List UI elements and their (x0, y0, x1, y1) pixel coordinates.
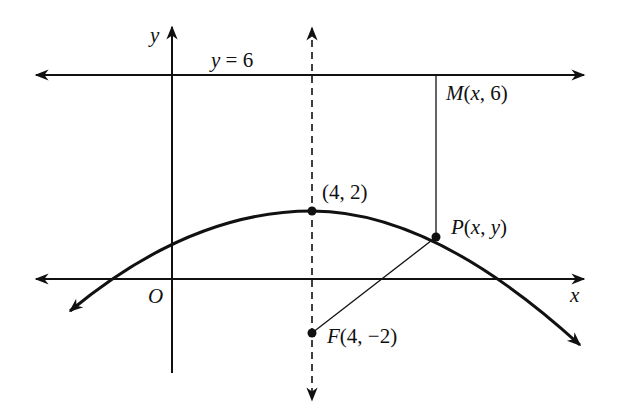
parabola-diagram: y x O y = 6 (4, 2) P(x, y) M(x, 6) F(4, … (0, 0, 621, 416)
directrix-label: y = 6 (211, 50, 253, 71)
p-name: P (451, 215, 464, 239)
p-close: ) (500, 215, 507, 239)
m-open: ( (464, 81, 471, 105)
directrix-label-var: y (211, 48, 220, 72)
segment-pf (312, 237, 436, 333)
p-open: ( (464, 215, 471, 239)
m-name: M (446, 81, 464, 105)
x-axis-label: x (570, 285, 579, 306)
point-p (432, 233, 441, 242)
directrix-label-eq: = 6 (220, 48, 253, 72)
vertex-point (308, 207, 317, 216)
p-x: x (471, 215, 480, 239)
vertex-label: (4, 2) (322, 182, 368, 203)
m-rest: , 6) (480, 81, 508, 105)
focus-point (308, 329, 317, 338)
p-y: y (491, 215, 500, 239)
diagram-canvas (0, 0, 621, 416)
y-axis-label: y (150, 25, 159, 46)
m-x: x (471, 81, 480, 105)
p-sep: , (480, 215, 491, 239)
focus-label: F(4, −2) (327, 326, 397, 347)
point-p-label: P(x, y) (451, 217, 507, 238)
origin-label: O (148, 286, 163, 307)
f-name: F (327, 324, 340, 348)
f-coords: (4, −2) (340, 324, 397, 348)
point-m-label: M(x, 6) (446, 83, 508, 104)
